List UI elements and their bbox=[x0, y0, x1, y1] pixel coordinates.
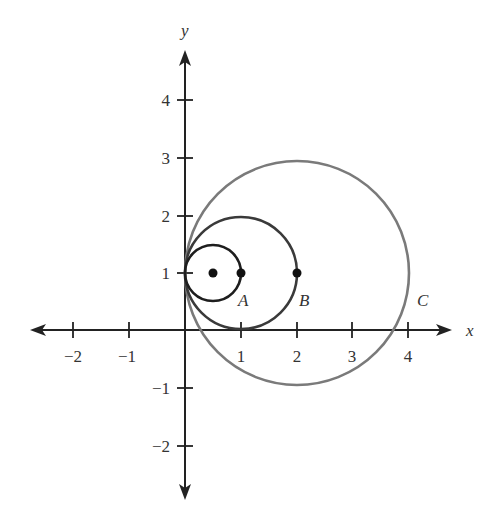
x-axis-label: x bbox=[465, 321, 474, 340]
y-axis-label: y bbox=[179, 21, 189, 40]
x-tick-label: −2 bbox=[64, 347, 82, 366]
y-tick-label: −1 bbox=[152, 379, 170, 398]
x-tick-label: 2 bbox=[293, 347, 302, 366]
point-a bbox=[237, 269, 246, 278]
y-tick-label: −2 bbox=[152, 437, 170, 456]
y-tick-label: 2 bbox=[162, 207, 171, 226]
x-tick-label: 4 bbox=[404, 347, 413, 366]
x-tick-label: 1 bbox=[237, 347, 246, 366]
coordinate-plane: −2 −1 1 2 3 4 4 3 2 1 −1 −2 x y A B C bbox=[0, 0, 494, 516]
label-a: A bbox=[237, 291, 249, 310]
label-b: B bbox=[299, 291, 310, 310]
point-b bbox=[293, 269, 302, 278]
y-tick-label: 1 bbox=[162, 264, 171, 283]
x-tick-label: 3 bbox=[348, 347, 357, 366]
y-tick-label: 4 bbox=[162, 91, 171, 110]
label-c: C bbox=[417, 291, 429, 310]
center-point-small bbox=[209, 269, 218, 278]
x-tick-label: −1 bbox=[118, 347, 136, 366]
y-tick-label: 3 bbox=[162, 149, 171, 168]
